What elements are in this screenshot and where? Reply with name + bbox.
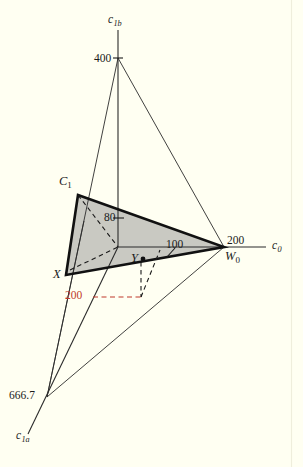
point-marker-Y <box>141 257 146 262</box>
point-label-Y: Y <box>131 252 138 265</box>
point-label-C1-sub: 1 <box>67 180 72 190</box>
axis-label-c1a: c1a <box>16 430 30 444</box>
tick-label-200-projection: 200 <box>65 290 82 302</box>
shaded-polygon-region <box>66 195 224 275</box>
point-label-C1: C1 <box>59 175 72 190</box>
point-label-X: X <box>53 268 61 281</box>
axis-label-c0: c0 <box>272 240 282 254</box>
tick-label-666: 666.7 <box>9 390 35 402</box>
tick-label-200-c0: 200 <box>227 235 244 247</box>
axis-label-c1b: c1b <box>108 14 122 28</box>
tick-label-100: 100 <box>166 239 183 251</box>
axis-label-c0-sub: 0 <box>277 245 281 254</box>
point-label-Y-main: Y <box>131 251 138 265</box>
figure-drawing <box>0 0 303 467</box>
axis-label-c1a-sub: 1a <box>21 435 30 444</box>
axis-label-c1b-sub: 1b <box>113 19 122 28</box>
point-label-W0: W0 <box>225 250 240 265</box>
point-label-X-main: X <box>53 267 61 281</box>
point-label-W0-main: W <box>225 249 235 263</box>
tick-label-80: 80 <box>104 212 116 224</box>
point-label-W0-sub: 0 <box>235 255 240 265</box>
tick-label-400: 400 <box>94 53 111 65</box>
figure-container: c1b c0 c1a 400 80 200 100 666.7 200 C1 X… <box>0 0 303 467</box>
